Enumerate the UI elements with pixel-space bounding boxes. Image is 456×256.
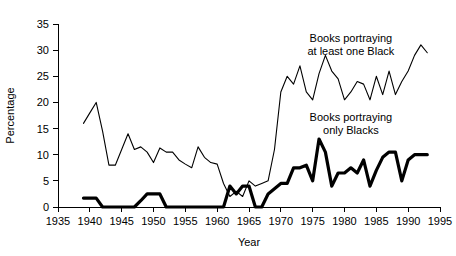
x-tick-label: 1990 <box>396 215 420 227</box>
x-tick-label: 1985 <box>364 215 388 227</box>
x-tick-label: 1965 <box>237 215 261 227</box>
line-chart-svg: 05101520253035 1935194019451950195519601… <box>0 0 456 256</box>
y-tick-label: 20 <box>37 96 49 108</box>
x-tick-label: 1940 <box>78 215 102 227</box>
x-tick-label: 1975 <box>300 215 324 227</box>
x-tick-label: 1970 <box>269 215 293 227</box>
series-annotation-label: Books portrayingonly Blacks <box>310 111 393 136</box>
x-tick-label: 1945 <box>109 215 133 227</box>
y-axis-title: Percentage <box>4 87 16 143</box>
y-tick-label: 5 <box>43 175 49 187</box>
y-tick-label: 15 <box>37 123 49 135</box>
y-axis-ticks: 05101520253035 <box>37 18 58 213</box>
x-tick-label: 1960 <box>205 215 229 227</box>
y-tick-label: 10 <box>37 149 49 161</box>
series-annotation-label: Books portrayingat least one Black <box>307 32 394 57</box>
series-annotations: Books portrayingat least one BlackBooks … <box>307 32 394 135</box>
x-tick-label: 1995 <box>428 215 452 227</box>
chart-container: 05101520253035 1935194019451950195519601… <box>0 0 456 256</box>
y-tick-label: 30 <box>37 44 49 56</box>
x-axis-title: Year <box>238 236 261 248</box>
x-tick-label: 1950 <box>141 215 165 227</box>
x-tick-label: 1935 <box>46 215 70 227</box>
y-tick-label: 25 <box>37 70 49 82</box>
x-tick-label: 1980 <box>332 215 356 227</box>
x-axis-ticks: 1935194019451950195519601965197019751980… <box>46 207 452 227</box>
y-tick-label: 35 <box>37 18 49 30</box>
x-tick-label: 1955 <box>173 215 197 227</box>
y-tick-label: 0 <box>43 201 49 213</box>
